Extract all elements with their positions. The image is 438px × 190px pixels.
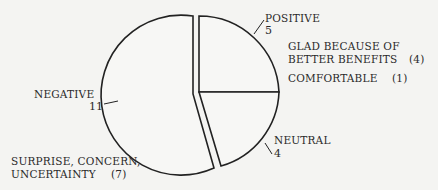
count-surprise: (7) <box>111 168 126 180</box>
label-glad-line2: BETTER BENEFITS <box>288 53 397 65</box>
label-positive: POSITIVE <box>265 12 320 24</box>
label-surprise-line1: SURPRISE, CONCERN, <box>11 155 141 167</box>
label-neutral: NEUTRAL <box>274 134 331 146</box>
leader-line-neutral <box>265 143 272 154</box>
label-negative: NEGATIVE <box>34 88 94 100</box>
leader-line-positive <box>254 20 264 34</box>
count-neutral: 4 <box>274 148 281 160</box>
count-glad: (4) <box>409 53 424 65</box>
label-surprise-line2: UNCERTAINTY <box>11 168 96 180</box>
pie-slice-negative <box>101 15 214 175</box>
count-comfortable: (1) <box>392 72 407 84</box>
count-negative: 11 <box>89 101 103 113</box>
label-comfortable: COMFORTABLE <box>288 72 378 84</box>
count-positive: 5 <box>265 25 272 37</box>
label-glad-line1: GLAD BECAUSE OF <box>288 40 400 52</box>
